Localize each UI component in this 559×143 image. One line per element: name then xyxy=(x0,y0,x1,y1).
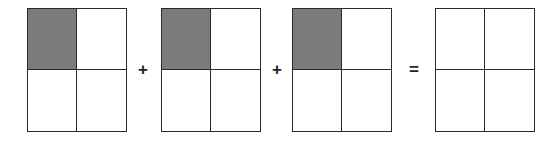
shaded-quarter xyxy=(28,9,77,70)
empty-quarter xyxy=(436,9,485,70)
shaded-quarter xyxy=(162,9,211,70)
empty-quarter xyxy=(77,70,126,131)
empty-quarter xyxy=(485,9,534,70)
empty-quarter xyxy=(77,9,126,70)
plus-sign: + xyxy=(135,60,151,80)
empty-quarter xyxy=(162,70,211,131)
area-model-2 xyxy=(161,8,261,132)
area-model-1 xyxy=(27,8,127,132)
equals-sign: = xyxy=(406,60,422,80)
empty-quarter xyxy=(211,9,260,70)
plus-sign: + xyxy=(269,60,285,80)
empty-quarter xyxy=(436,70,485,131)
empty-quarter xyxy=(28,70,77,131)
empty-quarter xyxy=(293,70,342,131)
shaded-quarter xyxy=(293,9,342,70)
empty-quarter xyxy=(342,9,391,70)
empty-quarter xyxy=(485,70,534,131)
result-area-model xyxy=(435,8,535,132)
empty-quarter xyxy=(342,70,391,131)
area-model-3 xyxy=(292,8,392,132)
empty-quarter xyxy=(211,70,260,131)
